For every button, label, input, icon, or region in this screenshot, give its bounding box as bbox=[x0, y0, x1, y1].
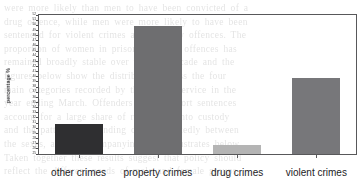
bar-other-crimes[interactable] bbox=[55, 124, 103, 154]
bar-property-crimes[interactable] bbox=[134, 26, 182, 154]
x-tick-mark bbox=[237, 155, 238, 158]
x-axis-labels: other crimesproperty crimesdrug crimesvi… bbox=[0, 166, 364, 184]
x-axis-label-violent-crimes: violent crimes bbox=[256, 166, 364, 179]
bar-drug-crimes[interactable] bbox=[213, 145, 261, 154]
bar-chart: percentage % 252627282930313233343536373… bbox=[0, 0, 364, 191]
plot-area bbox=[39, 15, 356, 154]
bar-violent-crimes[interactable] bbox=[292, 78, 340, 154]
x-tick-mark bbox=[79, 155, 80, 158]
y-axis-ticks: 2526272829303132333435363738394041424344… bbox=[0, 0, 38, 156]
x-tick-mark bbox=[316, 155, 317, 158]
x-tick-mark bbox=[158, 155, 159, 158]
